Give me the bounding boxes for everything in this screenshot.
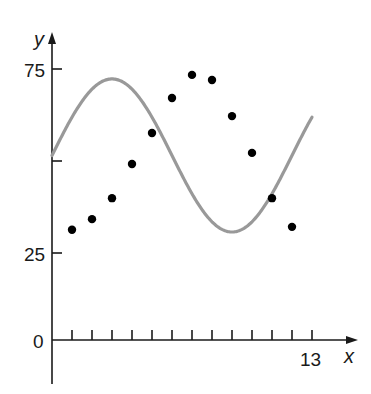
data-point: [208, 76, 216, 84]
y-tick-label-75: 75: [24, 60, 45, 81]
data-point: [228, 112, 236, 120]
x-tick-label-13: 13: [300, 349, 321, 370]
data-point: [288, 223, 296, 231]
data-point: [188, 71, 196, 79]
data-point: [268, 194, 276, 202]
data-point: [128, 160, 136, 168]
y-tick-label-0: 0: [33, 331, 44, 352]
data-point: [148, 129, 156, 137]
data-point: [248, 149, 256, 157]
y-axis-label: y: [32, 28, 45, 50]
data-point: [88, 215, 96, 223]
data-point: [68, 226, 76, 234]
x-axis-arrow-icon: [346, 336, 358, 344]
y-tick-label-25: 25: [24, 244, 45, 265]
y-axis-arrow-icon: [48, 32, 56, 44]
x-axis-label: x: [343, 345, 355, 367]
data-point: [108, 194, 116, 202]
data-point: [168, 94, 176, 102]
scatter-chart: y x 75 25 0 13: [0, 0, 371, 394]
sinusoidal-fit-curve: [52, 79, 312, 232]
